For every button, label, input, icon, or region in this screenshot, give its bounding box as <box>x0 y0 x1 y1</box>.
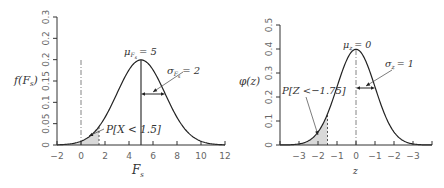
y-tick-label: 0.2 <box>264 90 274 104</box>
y-tick-label: 0.05 <box>41 114 51 134</box>
left-x-axis-label: Fs <box>131 163 144 179</box>
y-tick-label: 0.4 <box>264 42 274 57</box>
x-tick-label: −3 <box>406 151 419 161</box>
right-chart: −3−2−10−1−2−3 00.10.20.30.40.5 φ(z) z μz… <box>239 18 432 176</box>
x-tick-label: −3 <box>292 151 305 161</box>
x-tick-label: 12 <box>219 151 230 161</box>
x-tick-label: 0 <box>78 151 84 161</box>
y-tick-label: 0.1 <box>41 95 51 109</box>
right-sigma-leader-arrowhead <box>366 82 370 86</box>
x-tick-label: −2 <box>311 151 324 161</box>
y-tick-label: 0.5 <box>264 18 274 32</box>
x-tick-label: −2 <box>387 151 400 161</box>
x-tick-label: −1 <box>330 151 343 161</box>
x-tick-label: −2 <box>50 151 63 161</box>
left-probability-label: P[X < 1.5] <box>105 123 162 135</box>
x-tick-label: 6 <box>150 151 156 161</box>
x-tick-label: 4 <box>126 151 132 161</box>
left-chart: −2024681012 00.050.10.150.20.20.3 f(Fs) … <box>13 10 231 179</box>
right-mean-label: μz= 0 <box>343 39 371 51</box>
right-y-ticks: 00.10.20.30.40.5 <box>264 18 280 148</box>
left-y-ticks: 00.050.10.150.20.20.3 <box>41 10 57 148</box>
figure-canvas: −2024681012 00.050.10.150.20.20.3 f(Fs) … <box>0 0 444 188</box>
y-tick-label: 0 <box>264 142 274 148</box>
left-y-axis-label: f(Fs) <box>13 74 38 88</box>
y-tick-label: 0.3 <box>264 66 274 80</box>
x-tick-label: 0 <box>353 151 359 161</box>
right-sd-label: σz= 1 <box>385 58 414 70</box>
x-tick-label: −1 <box>368 151 381 161</box>
left-sd-label: σFs= 2 <box>167 65 200 79</box>
left-sigma-arrow <box>141 92 165 96</box>
y-tick-label: 0.15 <box>41 71 51 91</box>
left-mean-label: μFs= 5 <box>124 46 157 60</box>
x-tick-label: 8 <box>174 151 180 161</box>
x-tick-label: 2 <box>102 151 108 161</box>
y-tick-label: 0 <box>41 142 51 148</box>
y-tick-label: 0.2 <box>41 53 51 67</box>
y-tick-label: 0.2 <box>41 31 51 45</box>
y-tick-label: 0.3 <box>41 10 51 24</box>
x-tick-label: 10 <box>195 151 207 161</box>
right-x-axis-label: z <box>352 166 358 176</box>
right-probability-label: P[Z <−1.75] <box>281 85 346 96</box>
right-prob-leader-line <box>306 97 318 135</box>
right-y-axis-label: φ(z) <box>239 75 260 87</box>
right-sigma-arrow <box>356 86 375 90</box>
y-tick-label: 0.1 <box>264 114 274 128</box>
left-sigma-leader-arrowhead <box>153 88 157 92</box>
